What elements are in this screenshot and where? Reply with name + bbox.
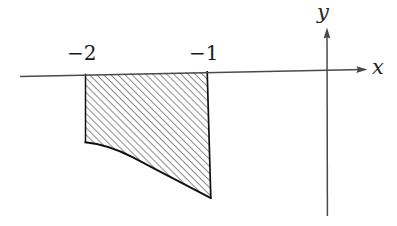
y-axis-arrowhead xyxy=(324,28,331,39)
figure-canvas: −2 −1 x y xyxy=(0,0,397,226)
x-axis-label: x xyxy=(372,57,384,78)
y-axis-label: y xyxy=(317,2,329,23)
tick-label-neg-one: −1 xyxy=(189,43,218,63)
x-axis-arrowhead xyxy=(356,66,367,73)
shaded-region xyxy=(86,72,211,198)
tick-label-neg-two: −2 xyxy=(67,43,96,63)
diagram-svg xyxy=(0,0,397,226)
